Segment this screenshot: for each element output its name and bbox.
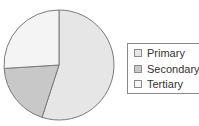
legend-item-tertiary: Tertiary — [134, 77, 183, 91]
legend-label-primary: Primary — [147, 46, 185, 60]
pie-slices — [4, 10, 114, 120]
legend-swatch-primary — [134, 49, 142, 57]
legend-item-primary: Primary — [134, 46, 185, 60]
pie-chart — [0, 0, 120, 126]
legend-label-secondary: Secondary — [147, 62, 199, 76]
legend-swatch-secondary — [134, 65, 142, 73]
pie-slice-tertiary — [4, 10, 59, 68]
chart-legend: Primary Secondary Tertiary — [127, 43, 199, 94]
legend-label-tertiary: Tertiary — [147, 77, 183, 91]
legend-item-secondary: Secondary — [134, 62, 199, 76]
legend-swatch-tertiary — [134, 80, 142, 88]
